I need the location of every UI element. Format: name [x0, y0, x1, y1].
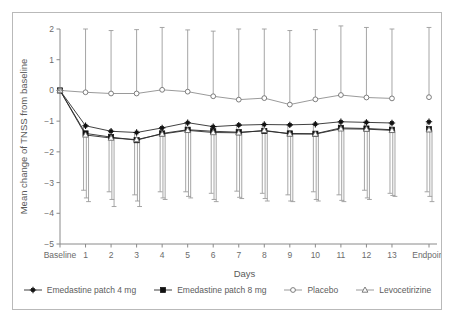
chart-canvas: 210−1−2−3−4−5 Baseline12345678910111213E… — [13, 13, 441, 309]
data-point-2-12 — [364, 95, 369, 100]
legend-item-2[interactable]: Placebo — [283, 285, 338, 295]
data-point-2-1 — [83, 90, 88, 95]
data-point-2-8 — [262, 96, 267, 101]
y-tick-label: 1 — [49, 55, 54, 65]
data-point-2-9 — [287, 102, 292, 107]
triangle-marker-icon — [355, 285, 375, 295]
x-tick-label: 12 — [362, 250, 372, 260]
data-point-2-3 — [134, 91, 139, 96]
x-tick-labels: Baseline12345678910111213Endpoint — [44, 250, 441, 260]
x-tick-label: 9 — [287, 250, 292, 260]
y-tick-labels: 210−1−2−3−4−5 — [44, 24, 54, 249]
y-tick-label: 0 — [49, 85, 54, 95]
data-point-2-5 — [185, 89, 190, 94]
x-tick-label: 5 — [185, 250, 190, 260]
x-tick-label: 8 — [262, 250, 267, 260]
x-tick-label: Endpoint — [412, 250, 441, 260]
y-tick-label: 2 — [49, 24, 54, 34]
data-point-2-7 — [236, 97, 241, 102]
cross-diamond-marker-icon — [23, 285, 43, 295]
data-point-2-6 — [211, 94, 216, 99]
legend-marker-glyph — [161, 287, 166, 292]
x-tick-label: 2 — [109, 250, 114, 260]
data-point-2-2 — [109, 91, 114, 96]
legend-marker-glyph — [30, 287, 36, 293]
y-tick-label: −5 — [44, 239, 54, 249]
legend-item-label: Placebo — [307, 285, 338, 295]
legend-marker-glyph — [291, 288, 296, 293]
x-tick-label: 7 — [236, 250, 241, 260]
legend-item-label: Levocetirizine — [379, 285, 431, 295]
x-tick-label: 1 — [83, 250, 88, 260]
data-point-2-14 — [427, 95, 432, 100]
circle-marker-icon — [283, 285, 303, 295]
x-tick-label: Baseline — [44, 250, 77, 260]
y-tick-label: −2 — [44, 147, 54, 157]
legend-item-0[interactable]: Emedastine patch 4 mg — [23, 285, 136, 295]
x-tick-label: 6 — [211, 250, 216, 260]
figure-panel: 210−1−2−3−4−5 Baseline12345678910111213E… — [12, 12, 442, 310]
x-tick-label: 13 — [387, 250, 397, 260]
legend-item-label: Emedastine patch 4 mg — [47, 285, 136, 295]
x-tick-label: 10 — [311, 250, 321, 260]
error-bars-group — [81, 26, 434, 207]
square-marker-icon — [153, 285, 173, 295]
data-point-2-10 — [313, 97, 318, 102]
y-tick-label: −4 — [44, 208, 54, 218]
y-axis-title: Mean change of TNSS from baseline — [18, 59, 29, 215]
series-markers-group — [57, 87, 432, 143]
x-tick-label: 11 — [336, 250, 345, 260]
data-point-2-4 — [160, 87, 165, 92]
legend-item-3[interactable]: Levocetirizine — [355, 285, 431, 295]
legend-item-label: Emedastine patch 8 mg — [177, 285, 266, 295]
x-tick-label: 3 — [134, 250, 139, 260]
x-axis-title: Days — [234, 268, 256, 279]
x-tick-label: 4 — [160, 250, 165, 260]
data-point-2-13 — [390, 96, 395, 101]
y-tick-label: −3 — [44, 178, 54, 188]
chart-legend: Emedastine patch 4 mgEmedastine patch 8 … — [13, 285, 441, 295]
legend-item-1[interactable]: Emedastine patch 8 mg — [153, 285, 266, 295]
y-tick-label: −1 — [44, 116, 54, 126]
data-point-2-11 — [338, 93, 343, 98]
